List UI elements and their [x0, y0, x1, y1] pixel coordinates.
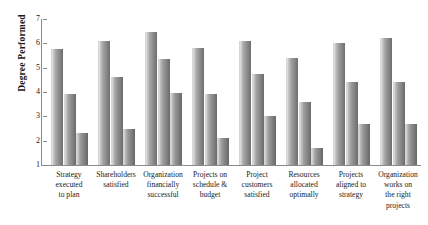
x-axis-category-label: Projects onschedule &budget [186, 170, 234, 201]
x-axis-category-label: Organizationfinanciallysuccessful [139, 170, 187, 201]
y-axis-tick-label: 7 [36, 13, 40, 24]
bar [380, 38, 392, 165]
bar [76, 133, 88, 165]
bar [358, 124, 370, 165]
bar [51, 49, 63, 165]
y-axis-tick-mark [43, 92, 47, 93]
y-axis-tick-label: 4 [36, 86, 40, 97]
bar [346, 82, 358, 165]
bar [64, 94, 76, 165]
y-axis-tick: 7 [21, 19, 47, 20]
bar-group [333, 19, 369, 165]
y-axis-tick-mark [43, 68, 47, 69]
y-axis-tick-mark [43, 116, 47, 117]
x-axis-category-label: Projectcustomerssatisfied [233, 170, 281, 201]
y-axis-tick: 6 [21, 43, 47, 44]
x-axis-category-labels: Strategyexecutedto planShareholderssatis… [41, 170, 421, 225]
bar [239, 41, 251, 165]
bar-group [51, 19, 87, 165]
x-axis-line [41, 165, 421, 166]
bar [393, 82, 405, 165]
y-axis-tick-label: 6 [36, 37, 40, 48]
y-axis-title: Degree Performed [17, 0, 27, 113]
bar-group [192, 19, 228, 165]
bar [405, 124, 417, 165]
y-axis-tick-label: 1 [36, 159, 40, 170]
y-axis-tick-label: 3 [36, 110, 40, 121]
bar [145, 32, 157, 165]
x-axis-category-label: Projectsaligned tostrategy [327, 170, 375, 201]
bar [217, 138, 229, 165]
bar [286, 58, 298, 165]
y-axis-tick-mark [43, 141, 47, 142]
bar-chart: Degree Performed 1234567 Strategyexecute… [0, 0, 428, 225]
bar [170, 93, 182, 165]
y-axis-tick-mark [43, 19, 47, 20]
bar [252, 74, 264, 165]
bar [123, 129, 135, 166]
y-axis-tick-label: 5 [36, 62, 40, 73]
bar [311, 148, 323, 165]
bar [192, 48, 204, 165]
x-axis-category-label: Strategyexecutedto plan [45, 170, 93, 201]
plot-area: 1234567 [41, 19, 421, 166]
x-axis-category-label: Organizationworks onthe rightprojects [374, 170, 422, 211]
bar-group [98, 19, 134, 165]
bar-group [145, 19, 181, 165]
x-axis-category-label: Resourcesallocatedoptimally [280, 170, 328, 201]
y-axis-tick: 4 [21, 92, 47, 93]
bar [158, 59, 170, 165]
bar [205, 94, 217, 165]
y-axis-tick: 5 [21, 68, 47, 69]
y-axis-tick: 2 [21, 141, 47, 142]
bar-group [239, 19, 275, 165]
bar [264, 116, 276, 165]
x-axis-category-label: Shareholderssatisfied [92, 170, 140, 190]
y-axis-tick-label: 2 [36, 135, 40, 146]
bar [299, 102, 311, 165]
bar [111, 77, 123, 165]
bar-group [286, 19, 322, 165]
y-axis-tick-mark [43, 165, 47, 166]
bar [98, 41, 110, 165]
y-axis-tick: 1 [21, 165, 47, 166]
bar-group [380, 19, 416, 165]
y-axis-tick-mark [43, 43, 47, 44]
y-axis-tick: 3 [21, 116, 47, 117]
bar [333, 43, 345, 165]
